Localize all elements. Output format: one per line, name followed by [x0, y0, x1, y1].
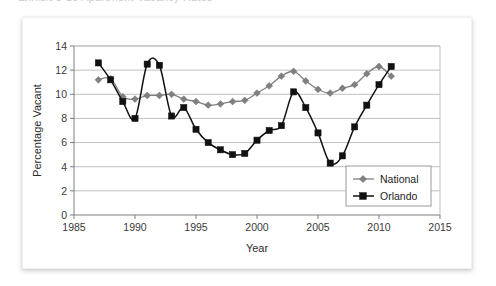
- data-point-national-1998: [229, 98, 236, 105]
- data-point-orlando-1992: [156, 62, 162, 68]
- data-point-orlando-2003: [291, 89, 297, 95]
- data-point-orlando-1990: [132, 115, 138, 121]
- data-point-national-1996: [205, 102, 212, 109]
- chart-svg: 02468101214 1985199019952000200520102015…: [23, 18, 473, 270]
- y-axis-title: Percentage Vacant: [31, 84, 43, 177]
- caption-text: Exhibit 5-10 Apartment Vacancy Rates: [18, 0, 213, 3]
- data-point-orlando-1989: [120, 98, 126, 104]
- data-point-orlando-2011: [388, 63, 394, 69]
- data-point-national-1994: [180, 96, 187, 103]
- screenshot-root: Exhibit 5-10 Apartment Vacancy Rates 024…: [0, 0, 496, 286]
- data-point-orlando-1997: [217, 147, 223, 153]
- data-point-national-1991: [144, 92, 151, 99]
- x-tick-label-2000: 2000: [245, 221, 269, 233]
- data-point-orlando-2008: [352, 124, 358, 130]
- data-point-orlando-2007: [339, 153, 345, 159]
- data-point-orlando-1998: [230, 152, 236, 158]
- x-tick-label-2015: 2015: [428, 221, 452, 233]
- data-point-national-2010: [376, 63, 383, 70]
- x-axis-ticks-group: 1985199019952000200520102015: [62, 215, 452, 233]
- data-point-orlando-2001: [266, 127, 272, 133]
- data-point-national-1992: [156, 92, 163, 99]
- data-point-orlando-2002: [278, 123, 284, 129]
- data-point-orlando-2004: [303, 104, 309, 110]
- y-tick-label-8: 8: [61, 112, 67, 124]
- y-tick-label-6: 6: [61, 136, 67, 148]
- chart-card: 02468101214 1985199019952000200520102015…: [22, 17, 472, 269]
- data-point-orlando-2009: [364, 102, 370, 108]
- data-point-national-1997: [217, 101, 224, 108]
- data-point-orlando-1996: [205, 139, 211, 145]
- y-tick-label-14: 14: [55, 40, 67, 52]
- data-point-orlando-1988: [108, 77, 114, 83]
- data-point-orlando-2006: [327, 160, 333, 166]
- x-tick-label-1990: 1990: [123, 221, 147, 233]
- data-point-national-1990: [132, 96, 139, 103]
- x-tick-label-1995: 1995: [184, 221, 208, 233]
- y-tick-label-10: 10: [55, 88, 67, 100]
- data-point-national-2005: [315, 86, 322, 93]
- data-series-group: [95, 58, 395, 166]
- y-tick-label-0: 0: [61, 209, 67, 221]
- y-tick-label-2: 2: [61, 185, 67, 197]
- data-point-national-2003: [290, 68, 297, 75]
- y-tick-label-12: 12: [55, 64, 67, 76]
- data-point-national-1999: [241, 97, 248, 104]
- x-tick-label-2005: 2005: [306, 221, 330, 233]
- x-tick-label-1985: 1985: [62, 221, 86, 233]
- data-point-national-2006: [327, 90, 334, 97]
- data-point-national-1993: [168, 91, 175, 98]
- legend-label-orlando: Orlando: [380, 190, 418, 202]
- chart-legend: NationalOrlando: [346, 166, 431, 206]
- legend-marker-orlando: [360, 193, 367, 200]
- data-point-orlando-1995: [193, 126, 199, 132]
- vacancy-rate-line-chart: 02468101214 1985199019952000200520102015…: [23, 18, 473, 270]
- y-tick-label-4: 4: [61, 161, 67, 173]
- data-point-orlando-2000: [254, 137, 260, 143]
- data-point-orlando-1987: [95, 60, 101, 66]
- data-point-orlando-2005: [315, 130, 321, 136]
- data-point-national-2000: [254, 90, 261, 97]
- cut-off-caption-strip: Exhibit 5-10 Apartment Vacancy Rates: [0, 0, 496, 9]
- x-tick-label-2010: 2010: [367, 221, 391, 233]
- x-axis-title: Year: [246, 242, 269, 254]
- data-point-orlando-2010: [376, 82, 382, 88]
- data-point-orlando-1993: [169, 113, 175, 119]
- y-axis-ticks-group: 02468101214: [55, 40, 74, 221]
- data-point-national-1995: [193, 98, 200, 105]
- data-point-orlando-1999: [242, 150, 248, 156]
- series-line-orlando: [98, 58, 391, 164]
- legend-label-national: National: [380, 173, 419, 185]
- data-point-national-2007: [339, 85, 346, 92]
- data-point-orlando-1991: [144, 61, 150, 67]
- data-point-national-1987: [95, 76, 102, 83]
- data-point-orlando-1994: [181, 104, 187, 110]
